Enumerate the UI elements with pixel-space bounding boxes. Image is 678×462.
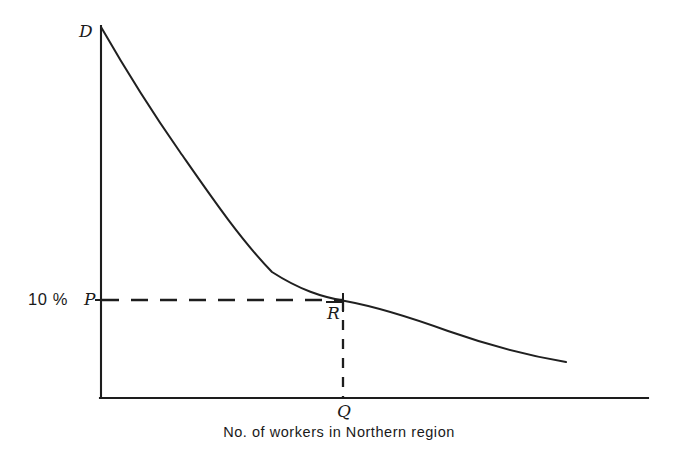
demand-curve-figure: D 10 % P R Q No. of workers in Northern … — [0, 0, 678, 462]
y-axis-value-label: 10 % — [28, 291, 68, 308]
label-q: Q — [337, 403, 351, 420]
label-r: R — [327, 305, 340, 322]
label-d: D — [79, 23, 93, 40]
x-axis-caption: No. of workers in Northern region — [0, 424, 678, 441]
label-p: P — [84, 291, 96, 308]
chart-canvas — [0, 0, 678, 462]
